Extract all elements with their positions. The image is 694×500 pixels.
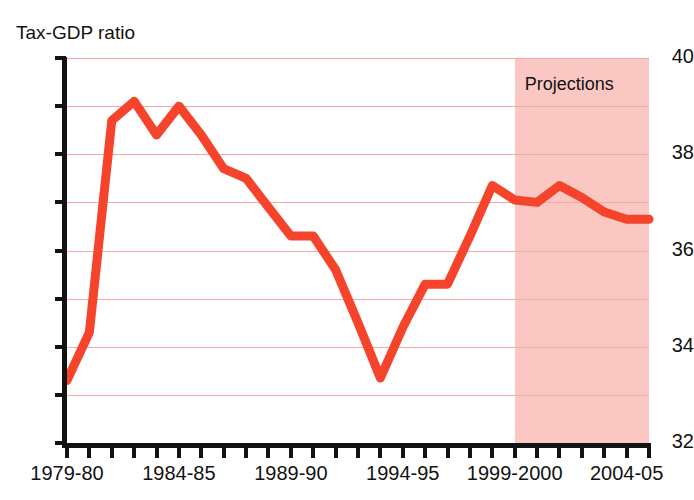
y-tick-major-36 bbox=[55, 249, 66, 253]
y-tick-label-34: 34 bbox=[642, 334, 694, 357]
x-tick-label-1984-85: 1984-85 bbox=[142, 462, 215, 485]
x-tick-1980-81 bbox=[87, 447, 91, 458]
x-tick-1981-82 bbox=[110, 447, 114, 458]
y-tick-label-38: 38 bbox=[642, 141, 694, 164]
y-tick-minor-39 bbox=[55, 104, 63, 108]
y-tick-minor-33 bbox=[55, 393, 63, 397]
x-tick-1995-96 bbox=[423, 447, 427, 458]
x-tick-1997-98 bbox=[468, 447, 472, 458]
projections-label: Projections bbox=[525, 74, 614, 95]
y-axis-title: Tax-GDP ratio bbox=[16, 22, 135, 44]
x-tick-2001-02 bbox=[557, 447, 561, 458]
x-tick-label-2004-05: 2004-05 bbox=[590, 462, 663, 485]
x-tick-1988-89 bbox=[266, 447, 270, 458]
x-tick-2002-03 bbox=[580, 447, 584, 458]
y-tick-label-40: 40 bbox=[642, 45, 694, 68]
x-tick-1987-88 bbox=[244, 447, 248, 458]
y-tick-major-32 bbox=[55, 441, 66, 445]
x-tick-1998-99 bbox=[490, 447, 494, 458]
x-tick-1989-90 bbox=[289, 447, 293, 458]
x-tick-1990-91 bbox=[311, 447, 315, 458]
x-tick-2004-05 bbox=[625, 447, 629, 458]
x-tick-label-1999-2000: 1999-2000 bbox=[467, 462, 563, 485]
y-tick-label-36: 36 bbox=[642, 238, 694, 261]
x-tick-label-1989-90: 1989-90 bbox=[254, 462, 327, 485]
x-tick-2005-06 bbox=[647, 447, 651, 458]
x-tick-1999-2000 bbox=[513, 447, 517, 458]
x-tick-1986-87 bbox=[222, 447, 226, 458]
y-tick-minor-35 bbox=[55, 297, 63, 301]
x-tick-1983-84 bbox=[155, 447, 159, 458]
x-tick-1993-94 bbox=[378, 447, 382, 458]
x-tick-label-1979-80: 1979-80 bbox=[30, 462, 103, 485]
x-tick-1994-95 bbox=[401, 447, 405, 458]
x-tick-label-1994-95: 1994-95 bbox=[366, 462, 439, 485]
x-tick-1996-97 bbox=[446, 447, 450, 458]
x-tick-1991-92 bbox=[334, 447, 338, 458]
y-tick-minor-37 bbox=[55, 200, 63, 204]
x-tick-2003-04 bbox=[602, 447, 606, 458]
x-tick-2000-01 bbox=[535, 447, 539, 458]
tax-gdp-ratio-chart: Tax-GDP ratio Projections 3234363840 197… bbox=[0, 0, 694, 500]
x-tick-1982-83 bbox=[132, 447, 136, 458]
y-tick-major-34 bbox=[55, 345, 66, 349]
y-tick-major-38 bbox=[55, 152, 66, 156]
x-tick-1984-85 bbox=[177, 447, 181, 458]
x-tick-1992-93 bbox=[356, 447, 360, 458]
x-tick-1985-86 bbox=[199, 447, 203, 458]
plot-area bbox=[67, 58, 649, 443]
y-tick-major-40 bbox=[55, 56, 66, 60]
series-line-svg bbox=[67, 58, 649, 443]
x-tick-1979-80 bbox=[65, 447, 69, 458]
tax-gdp-ratio-line bbox=[67, 101, 649, 380]
